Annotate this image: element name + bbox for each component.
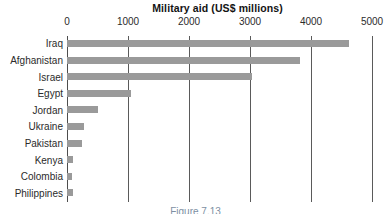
bar-row: [67, 119, 372, 136]
category-label: Jordan: [0, 105, 63, 116]
category-label: Pakistan: [0, 138, 63, 149]
bar-row: [67, 185, 372, 202]
bar: [67, 189, 73, 196]
x-tick-label: 5000: [361, 16, 383, 27]
bar-row: [67, 102, 372, 119]
category-axis-labels: IraqAfghanistanIsraelEgyptJordanUkraineP…: [0, 36, 63, 202]
category-label: Philippines: [0, 188, 63, 199]
bar-row: [67, 36, 372, 53]
x-tick-label: 1000: [117, 16, 139, 27]
bar: [67, 57, 300, 64]
x-tick-label: 0: [64, 16, 70, 27]
figure-caption: Figure 7.13: [0, 206, 391, 214]
chart-title-text: Military aid (US$ millions): [152, 2, 282, 14]
bar: [67, 140, 82, 147]
plot-area: [67, 36, 372, 202]
category-label: Kenya: [0, 155, 63, 166]
x-tick-label: 2000: [178, 16, 200, 27]
category-label: Iraq: [0, 38, 63, 49]
x-tick-label: 4000: [300, 16, 322, 27]
bar-row: [67, 169, 372, 186]
chart-figure: Military aid (US$ millions) 010002000300…: [0, 0, 391, 214]
gridline: [372, 36, 373, 202]
bar: [67, 173, 72, 180]
bar-row: [67, 69, 372, 86]
category-label: Ukraine: [0, 121, 63, 132]
bar-row: [67, 136, 372, 153]
bar: [67, 40, 349, 47]
bar-row: [67, 53, 372, 70]
category-label: Egypt: [0, 88, 63, 99]
x-axis-tick-labels: 010002000300040005000: [0, 16, 391, 32]
bar-row: [67, 152, 372, 169]
bar: [67, 156, 73, 163]
category-label: Colombia: [0, 171, 63, 182]
bar-row: [67, 86, 372, 103]
category-label: Afghanistan: [0, 55, 63, 66]
bar: [67, 106, 98, 113]
figure-caption-text: Figure 7.13: [170, 206, 221, 214]
bar: [67, 73, 252, 80]
x-tick-label: 3000: [239, 16, 261, 27]
bar: [67, 123, 84, 130]
bar: [67, 90, 131, 97]
chart-title: Military aid (US$ millions): [0, 2, 391, 14]
category-label: Israel: [0, 72, 63, 83]
